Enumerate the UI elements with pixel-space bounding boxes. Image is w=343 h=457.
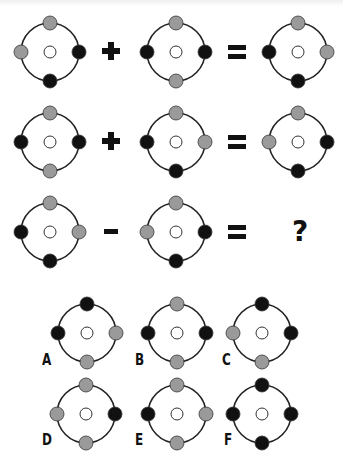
option-d-circle[interactable] <box>48 376 124 452</box>
node-left <box>140 45 154 59</box>
node-top <box>291 106 305 120</box>
node-bottom <box>291 74 305 88</box>
node-left <box>262 45 276 59</box>
node-left <box>50 407 64 421</box>
row1-right-circle <box>138 14 214 90</box>
node-bottom <box>43 254 57 268</box>
center-hole <box>80 408 92 420</box>
node-bottom <box>43 74 57 88</box>
option-f-circle[interactable] <box>224 376 300 452</box>
center-hole <box>171 327 183 339</box>
node-bottom <box>169 164 183 178</box>
center-hole <box>44 46 56 58</box>
node-right <box>284 407 298 421</box>
row2-right-circle <box>138 104 214 180</box>
node-top <box>79 378 93 392</box>
node-bottom <box>79 436 93 450</box>
node-right <box>198 45 212 59</box>
node-top <box>43 196 57 210</box>
node-top <box>43 106 57 120</box>
center-hole <box>292 136 304 148</box>
node-left <box>262 135 276 149</box>
row3-minus-sign <box>104 229 118 234</box>
option-b-circle[interactable] <box>139 295 215 371</box>
node-top <box>80 297 94 311</box>
row3-right-circle <box>138 194 214 270</box>
node-bottom <box>255 436 269 450</box>
node-left <box>14 45 28 59</box>
row2-result-circle <box>260 104 336 180</box>
row1-plus-sign <box>101 41 121 61</box>
node-right <box>198 225 212 239</box>
center-hole <box>292 46 304 58</box>
row3-left-circle <box>12 194 88 270</box>
node-bottom <box>291 164 305 178</box>
node-top <box>169 106 183 120</box>
node-bottom <box>170 436 184 450</box>
node-left <box>140 135 154 149</box>
center-hole <box>170 46 182 58</box>
row2-equals-sign <box>228 135 246 149</box>
node-left <box>14 225 28 239</box>
node-right <box>320 45 334 59</box>
node-right <box>72 45 86 59</box>
node-right <box>320 135 334 149</box>
question-mark: ? <box>290 218 310 246</box>
option-c-circle[interactable] <box>224 295 300 371</box>
node-bottom <box>80 355 94 369</box>
node-right <box>72 225 86 239</box>
node-bottom <box>170 355 184 369</box>
node-left <box>226 407 240 421</box>
node-top <box>170 297 184 311</box>
node-left <box>51 326 65 340</box>
node-right <box>199 407 213 421</box>
node-right <box>72 135 86 149</box>
node-left <box>141 326 155 340</box>
node-left <box>141 407 155 421</box>
option-e-circle[interactable] <box>139 376 215 452</box>
row3-equals-sign <box>228 225 246 239</box>
cropped-header-strip <box>0 0 343 6</box>
node-left <box>14 135 28 149</box>
center-hole <box>44 136 56 148</box>
node-top <box>43 16 57 30</box>
row1-left-circle <box>12 14 88 90</box>
node-right <box>109 326 123 340</box>
node-left <box>140 225 154 239</box>
center-hole <box>171 408 183 420</box>
node-left <box>226 326 240 340</box>
node-top <box>255 378 269 392</box>
row1-equals-sign <box>228 45 246 59</box>
node-right <box>198 135 212 149</box>
node-top <box>169 196 183 210</box>
node-top <box>255 297 269 311</box>
node-bottom <box>169 74 183 88</box>
option-a-circle[interactable] <box>49 295 125 371</box>
row1-result-circle <box>260 14 336 90</box>
node-bottom <box>169 254 183 268</box>
center-hole <box>170 226 182 238</box>
center-hole <box>44 226 56 238</box>
node-right <box>284 326 298 340</box>
node-top <box>291 16 305 30</box>
center-hole <box>256 408 268 420</box>
row2-plus-sign <box>101 131 121 151</box>
row2-left-circle <box>12 104 88 180</box>
node-bottom <box>255 355 269 369</box>
node-right <box>199 326 213 340</box>
node-top <box>169 16 183 30</box>
center-hole <box>81 327 93 339</box>
node-bottom <box>43 164 57 178</box>
node-top <box>170 378 184 392</box>
center-hole <box>170 136 182 148</box>
center-hole <box>256 327 268 339</box>
node-right <box>108 407 122 421</box>
